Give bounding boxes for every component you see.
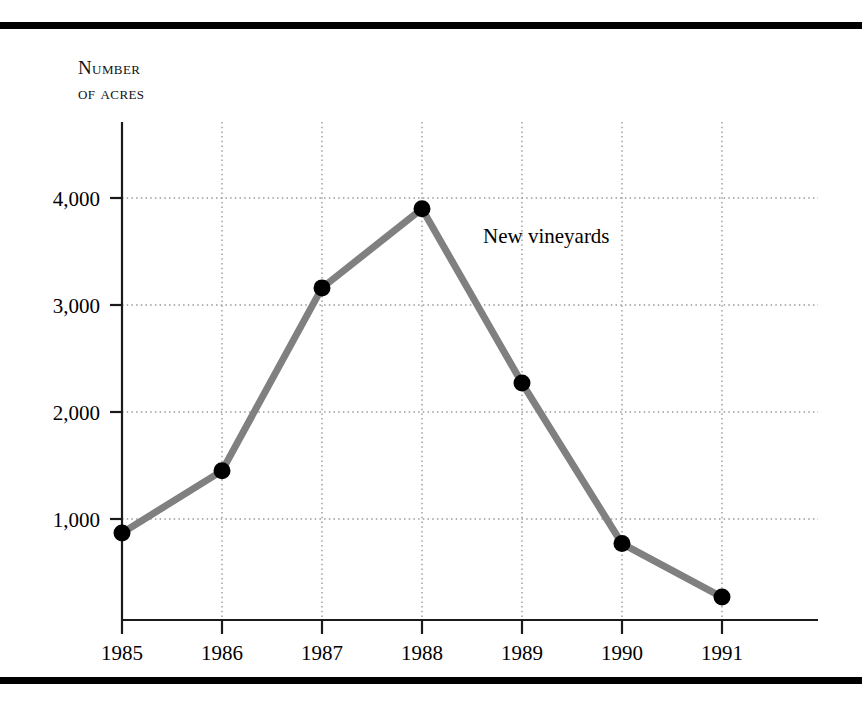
- line-chart: 4,000 3,000 2,000 1,000 1985 1986 1987 1…: [0, 0, 862, 701]
- x-tick-label-1987: 1987: [301, 641, 343, 665]
- x-axis: [122, 620, 818, 634]
- y-tick-label-3000: 3,000: [53, 294, 100, 318]
- data-point-1986: [214, 462, 231, 479]
- x-tick-label-1989: 1989: [501, 641, 543, 665]
- data-point-1990: [614, 535, 631, 552]
- y-tick-label-1000: 1,000: [53, 508, 100, 532]
- data-point-1989: [514, 375, 531, 392]
- y-tick-label-4000: 4,000: [53, 187, 100, 211]
- x-tick-label-1990: 1990: [601, 641, 643, 665]
- data-point-1988: [414, 200, 431, 217]
- y-tick-label-2000: 2,000: [53, 401, 100, 425]
- y-tick-labels: 4,000 3,000 2,000 1,000: [53, 187, 100, 532]
- series-markers: [114, 200, 731, 605]
- x-tick-label-1988: 1988: [401, 641, 443, 665]
- x-tick-labels: 1985 1986 1987 1988 1989 1990 1991: [101, 641, 743, 665]
- y-axis: [110, 122, 122, 620]
- x-tick-label-1991: 1991: [701, 641, 743, 665]
- data-point-1987: [314, 279, 331, 296]
- series-line-new-vineyards: [122, 209, 722, 597]
- series-annotation-label: New vineyards: [483, 224, 610, 248]
- x-tick-label-1986: 1986: [201, 641, 243, 665]
- data-point-1985: [114, 524, 131, 541]
- data-point-1991: [714, 589, 731, 606]
- figure-panel: Number of acres: [0, 0, 862, 701]
- gridlines-vertical: [222, 122, 722, 620]
- x-tick-label-1985: 1985: [101, 641, 143, 665]
